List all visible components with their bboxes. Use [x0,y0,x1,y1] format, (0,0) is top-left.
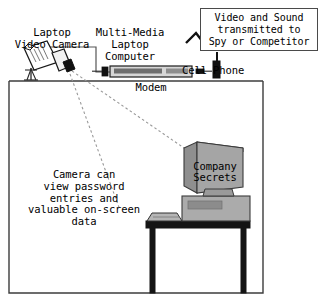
label-laptop-computer: Multi-Media Laptop Computer [78,27,182,62]
label-monitor-screen-text: Company Secrets [186,161,244,183]
computer-tower [182,196,250,221]
label-camera-capability-caption: Camera can view password entries and val… [14,169,154,228]
label-transmit-callout: Video and Sound transmitted to Spy or Co… [204,12,314,49]
desk [146,221,250,293]
label-cell-phone: Cell Phone [182,65,258,77]
diagram-canvas: Laptop Video Camera Multi-Media Laptop C… [0,0,322,305]
label-modem: Modem [118,82,184,94]
